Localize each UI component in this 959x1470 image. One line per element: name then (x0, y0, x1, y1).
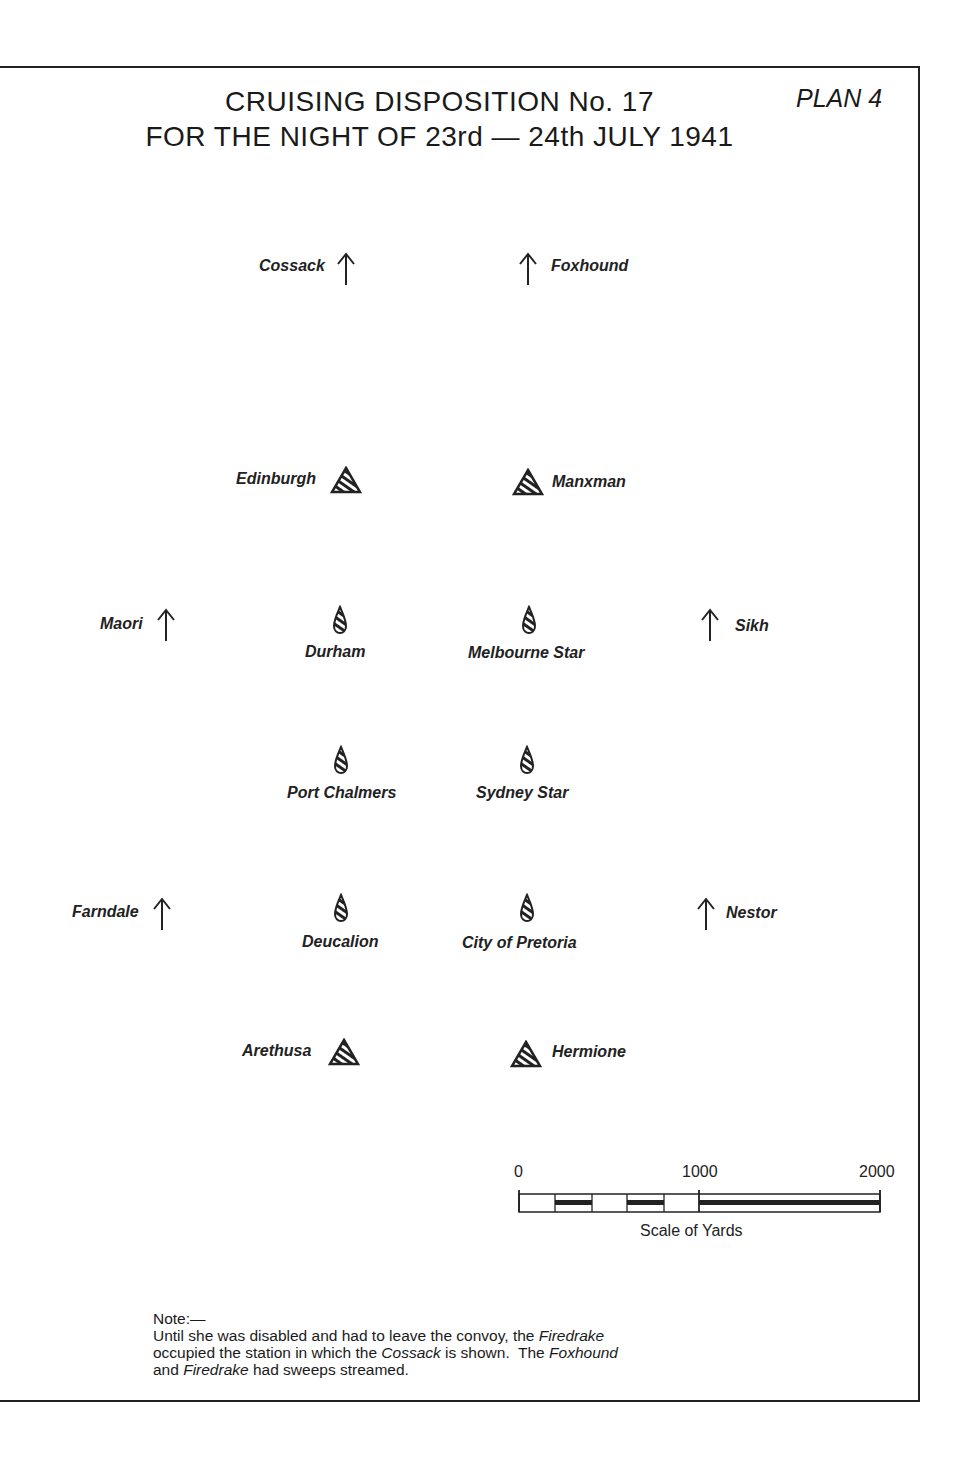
note-block: Note:— Until she was disabled and had to… (153, 1310, 853, 1378)
note-line-3: and Firedrake had sweeps streamed. (153, 1361, 853, 1378)
scale-caption: Scale of Yards (640, 1222, 743, 1240)
hatched-teardrop-icon (332, 745, 350, 775)
note-line-1: Until she was disabled and had to leave … (153, 1327, 853, 1344)
ship-label-manxman: Manxman (552, 473, 626, 491)
arrow-up-icon (156, 608, 176, 642)
ship-label-port-chalmers: Port Chalmers (287, 784, 396, 802)
hatched-teardrop-icon (520, 605, 538, 635)
ship-label-hermione: Hermione (552, 1043, 626, 1061)
arrow-up-icon (696, 897, 716, 931)
ship-label-edinburgh: Edinburgh (236, 470, 316, 488)
ship-label-cossack: Cossack (259, 257, 325, 275)
hatched-triangle-icon (510, 1040, 542, 1068)
hatched-teardrop-icon (331, 605, 349, 635)
arrow-up-icon (700, 608, 720, 642)
hatched-triangle-icon (512, 468, 544, 496)
hatched-triangle-icon (330, 466, 362, 494)
title-line-2: FOR THE NIGHT OF 23rd — 24th JULY 1941 (0, 121, 919, 153)
arrow-up-icon (336, 252, 356, 286)
ship-label-melbourne-star: Melbourne Star (468, 644, 584, 662)
ship-label-nestor: Nestor (726, 904, 777, 922)
ship-label-foxhound: Foxhound (551, 257, 628, 275)
ship-label-maori: Maori (100, 615, 143, 633)
title-line-1: CRUISING DISPOSITION No. 17 (0, 86, 919, 118)
scale-tick-2000: 2000 (859, 1163, 895, 1181)
hatched-teardrop-icon (518, 745, 536, 775)
ship-label-city-of-pretoria: City of Pretoria (462, 934, 577, 952)
ship-label-deucalion: Deucalion (302, 933, 378, 951)
ship-label-sydney-star: Sydney Star (476, 784, 568, 802)
hatched-teardrop-icon (518, 893, 536, 923)
note-line-2: occupied the station in which the Cossac… (153, 1344, 853, 1361)
ship-label-sikh: Sikh (735, 617, 769, 635)
scale-tick-0: 0 (514, 1163, 523, 1181)
scale-bar (516, 1188, 886, 1216)
ship-label-farndale: Farndale (72, 903, 139, 921)
arrow-up-icon (152, 897, 172, 931)
plan-number: PLAN 4 (796, 84, 882, 113)
note-heading: Note:— (153, 1310, 853, 1327)
hatched-teardrop-icon (332, 893, 350, 923)
ship-label-arethusa: Arethusa (242, 1042, 311, 1060)
ship-label-durham: Durham (305, 643, 365, 661)
hatched-triangle-icon (328, 1038, 360, 1066)
scale-tick-1000: 1000 (682, 1163, 718, 1181)
arrow-up-icon (518, 252, 538, 286)
